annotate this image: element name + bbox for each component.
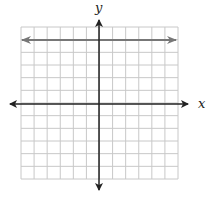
x-axis-label: x bbox=[198, 96, 206, 111]
coordinate-plane: x y bbox=[0, 0, 210, 197]
y-axis-label: y bbox=[94, 0, 103, 15]
